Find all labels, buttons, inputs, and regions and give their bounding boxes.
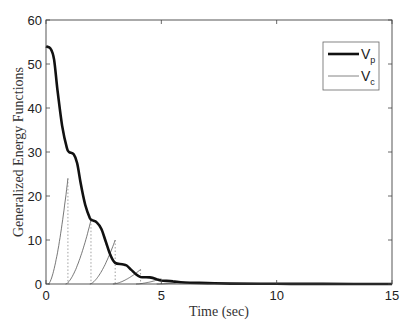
y-tick-label: 50: [28, 57, 42, 72]
vc-pulse: [66, 220, 91, 284]
y-tick-label: 40: [28, 101, 42, 116]
vc-pulse: [48, 178, 68, 284]
legend: Vp Vc: [323, 42, 379, 90]
vc-pulse: [113, 270, 141, 285]
y-tick-label: 60: [28, 13, 42, 28]
vc-pulse: [90, 240, 115, 284]
y-tick-label: 0: [35, 277, 42, 292]
x-tick-label: 15: [385, 288, 399, 303]
x-tick-label: 5: [158, 288, 165, 303]
energy-chart: 0510150102030405060 Time (sec) Generaliz…: [0, 0, 412, 333]
y-tick-label: 10: [28, 233, 42, 248]
y-tick-label: 30: [28, 145, 42, 160]
x-axis-title: Time (sec): [189, 304, 249, 320]
x-tick-label: 10: [269, 288, 283, 303]
x-tick-label: 0: [42, 288, 49, 303]
y-tick-label: 20: [28, 189, 42, 204]
y-axis-title: Generalized Energy Functions: [11, 67, 26, 237]
